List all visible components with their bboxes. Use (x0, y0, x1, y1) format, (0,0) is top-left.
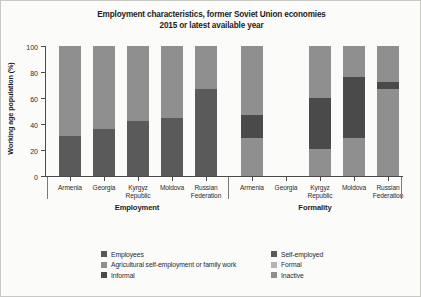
chart-legend: EmployeesSelf-employedAgricultural self-… (101, 249, 401, 281)
x-axis-category-label-line: Republic (116, 192, 160, 200)
legend-item[interactable]: Inactive (271, 272, 401, 279)
x-axis-category-label: RussianFederation (184, 184, 228, 199)
bar-segment[interactable] (59, 46, 81, 136)
x-axis-category-label-line: Republic (298, 192, 342, 200)
y-axis-tick: 20 (41, 150, 45, 151)
bar-segment[interactable] (343, 138, 365, 176)
x-axis-category-label-line: Russian (366, 184, 410, 192)
bar-segment[interactable] (93, 129, 115, 176)
legend-label: Formal (281, 261, 302, 268)
legend-label: Informal (111, 272, 135, 279)
x-axis-tick (252, 177, 253, 181)
y-axis-tick-label: 100 (26, 44, 38, 51)
x-axis-tick (70, 177, 71, 181)
legend-row: EmployeesSelf-employed (101, 249, 401, 260)
y-axis-tick: 100 (41, 46, 45, 47)
y-axis-tick-label: 60 (30, 96, 38, 103)
x-axis-category-label-line: Federation (184, 192, 228, 200)
bar-segment[interactable] (309, 149, 331, 176)
x-axis-tick (354, 177, 355, 181)
bar-segment[interactable] (127, 121, 149, 176)
legend-swatch-icon (271, 272, 277, 278)
x-axis-tick (320, 177, 321, 181)
x-axis-category-label: RussianFederation (366, 184, 410, 199)
chart-title: Employment characteristics, former Sovie… (1, 9, 421, 20)
legend-swatch-icon (271, 262, 277, 268)
y-axis-label: Working age population (%) (3, 43, 17, 173)
bar-segment[interactable] (241, 115, 263, 138)
legend-swatch-icon (101, 262, 107, 268)
bar-segment[interactable] (93, 46, 115, 129)
legend-label: Self-employed (281, 251, 323, 258)
bar-segment[interactable] (241, 138, 263, 176)
x-axis-tick (104, 177, 105, 181)
bar-segment[interactable] (195, 46, 217, 89)
y-axis-tick: 60 (41, 98, 45, 99)
legend-item[interactable]: Formal (271, 261, 401, 268)
x-axis-line (45, 176, 403, 177)
bar-segment[interactable] (195, 89, 217, 176)
y-axis-tick-label: 80 (30, 70, 38, 77)
chart-subtitle: 2015 or latest available year (1, 20, 421, 31)
y-axis-tick-label: 20 (30, 148, 38, 155)
x-axis-category-label-line: Federation (366, 192, 410, 200)
plot-area: 020406080100 (45, 46, 403, 176)
legend-item[interactable]: Self-employed (271, 251, 401, 258)
bar-segment[interactable] (309, 98, 331, 149)
legend-label: Inactive (281, 272, 304, 279)
y-axis-tick: 40 (41, 124, 45, 125)
bar-segment[interactable] (59, 136, 81, 176)
legend-label: Agricultural self-employment or family w… (111, 261, 236, 268)
group-separator (228, 177, 229, 199)
x-axis-tick (206, 177, 207, 181)
y-axis-tick: 80 (41, 72, 45, 73)
chart-title-block: Employment characteristics, former Sovie… (1, 9, 421, 31)
legend-row: Agricultural self-employment or family w… (101, 260, 401, 271)
y-axis-label-text: Working age population (%) (6, 62, 15, 154)
group-separator (47, 177, 48, 199)
legend-row: InformalInactive (101, 270, 401, 281)
group-separator (401, 177, 402, 199)
bar-segment[interactable] (377, 89, 399, 176)
bar-segment[interactable] (241, 46, 263, 115)
bar-segment[interactable] (343, 77, 365, 138)
bar-segment[interactable] (309, 46, 331, 98)
legend-label: Employees (111, 251, 144, 258)
y-axis-line (45, 46, 46, 176)
bar-segment[interactable] (377, 46, 399, 82)
legend-swatch-icon (101, 251, 107, 257)
legend-swatch-icon (271, 251, 277, 257)
bar-segment[interactable] (161, 118, 183, 177)
x-axis-tick (138, 177, 139, 181)
chart-figure: Employment characteristics, former Sovie… (0, 0, 421, 297)
bar-segment[interactable] (377, 82, 399, 89)
legend-item[interactable]: Agricultural self-employment or family w… (101, 261, 271, 268)
legend-item[interactable]: Informal (101, 272, 271, 279)
group-label: Employment (87, 203, 187, 212)
y-axis-tick-label: 0 (34, 174, 38, 181)
y-axis-tick: 0 (41, 176, 45, 177)
legend-item[interactable]: Employees (101, 251, 271, 258)
x-axis-tick (388, 177, 389, 181)
y-axis-tick-label: 40 (30, 122, 38, 129)
bar-segment[interactable] (343, 46, 365, 77)
x-axis-category-label-line: Russian (184, 184, 228, 192)
group-label: Formality (265, 203, 365, 212)
legend-swatch-icon (101, 272, 107, 278)
bar-segment[interactable] (161, 46, 183, 118)
x-axis-tick (172, 177, 173, 181)
bar-segment[interactable] (127, 46, 149, 121)
x-axis-tick (286, 177, 287, 181)
